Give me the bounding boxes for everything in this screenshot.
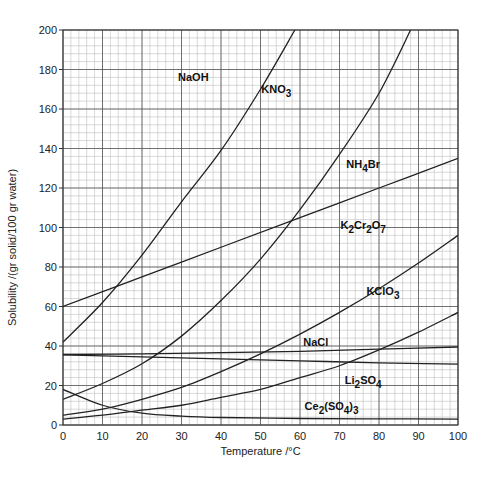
curve-label-part: 3 xyxy=(353,405,359,416)
y-tick-label: 40 xyxy=(45,340,57,352)
y-tick-label: 120 xyxy=(39,182,57,194)
x-tick-label: 60 xyxy=(294,430,306,442)
y-tick-label: 180 xyxy=(39,64,57,76)
x-tick-label: 90 xyxy=(412,430,424,442)
curve-label-naoh: NaOH xyxy=(178,71,209,83)
y-tick-label: 100 xyxy=(39,222,57,234)
y-tick-label: 0 xyxy=(51,419,57,431)
x-tick-label: 20 xyxy=(136,430,148,442)
y-tick-label: 200 xyxy=(39,24,57,36)
x-tick-label: 70 xyxy=(333,430,345,442)
x-tick-label: 30 xyxy=(175,430,187,442)
major-grid xyxy=(59,30,458,425)
curve-label-part: Ce xyxy=(305,400,319,412)
curve-label-part: 7 xyxy=(380,224,386,235)
curve-label-part: Br xyxy=(368,158,381,170)
x-tick-label: 10 xyxy=(96,430,108,442)
curve-label-part: SO xyxy=(360,374,376,386)
y-tick-labels: 020406080100120140160180200 xyxy=(39,24,57,431)
curve-label-part: NH xyxy=(346,158,362,170)
y-tick-label: 60 xyxy=(45,301,57,313)
curve-label-part: (SO xyxy=(324,400,344,412)
x-tick-label: 80 xyxy=(373,430,385,442)
curve-label-part: KClO xyxy=(366,285,394,297)
x-tick-labels: 0102030405060708090100 xyxy=(60,430,467,442)
curve-label-part: 3 xyxy=(286,88,292,99)
curve-label-part: K xyxy=(340,219,348,231)
curve-label-part: 3 xyxy=(394,290,400,301)
x-tick-label: 100 xyxy=(449,430,467,442)
y-axis-title: Solubility /(gr solid/100 gr water) xyxy=(6,169,18,326)
curve-label-nh4br: NH4Br xyxy=(346,158,380,174)
curve-label-part: Cr xyxy=(354,219,367,231)
curve-label-part: KNO xyxy=(261,83,286,95)
x-tick-label: 40 xyxy=(215,430,227,442)
solubility-chart: NaOHKNO3NH4BrK2Cr2O7KClO3NaClLi2SO4Ce2(S… xyxy=(0,0,489,480)
curve-label-nacl: NaCl xyxy=(303,336,328,348)
x-axis-title: Temperature /°C xyxy=(220,445,300,457)
y-tick-label: 20 xyxy=(45,380,57,392)
x-tick-label: 0 xyxy=(60,430,66,442)
curve-label-part: NaCl xyxy=(303,336,328,348)
curve-label-part: 4 xyxy=(376,379,382,390)
curve-label-part: Li xyxy=(345,374,355,386)
y-tick-label: 80 xyxy=(45,261,57,273)
y-tick-label: 160 xyxy=(39,103,57,115)
curve-labels: NaOHKNO3NH4BrK2Cr2O7KClO3NaClLi2SO4Ce2(S… xyxy=(178,71,400,416)
y-tick-label: 140 xyxy=(39,143,57,155)
curve-label-part: NaOH xyxy=(178,71,209,83)
x-tick-label: 50 xyxy=(254,430,266,442)
